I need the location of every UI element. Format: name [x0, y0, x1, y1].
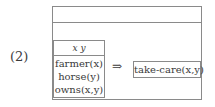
antecedent-universe: x y: [54, 41, 104, 56]
drs-antecedent-box: x y farmer(x) horse(y) owns(x,y): [53, 40, 105, 98]
condition-owns: owns(x,y): [54, 83, 104, 96]
drs-outer-box: x y farmer(x) horse(y) owns(x,y) ⇒ take-…: [52, 6, 202, 100]
example-number: (2): [10, 49, 28, 64]
condition-farmer: farmer(x): [54, 57, 104, 70]
antecedent-conditions: farmer(x) horse(y) owns(x,y): [54, 56, 104, 96]
condition-take-care: take-care(x,y): [134, 64, 204, 75]
condition-horse: horse(y): [54, 70, 104, 83]
drs-outer-universe: [53, 7, 201, 23]
drs-consequent-box: take-care(x,y): [133, 61, 201, 78]
implication-arrow-icon: ⇒: [112, 59, 122, 73]
